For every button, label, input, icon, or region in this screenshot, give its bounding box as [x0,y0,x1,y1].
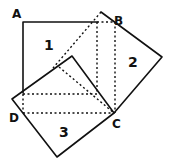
dotted-diagonal-to-C [59,67,114,113]
dashed-edge-square-2 [53,12,101,68]
label-D: D [9,111,19,125]
label-A: A [12,7,22,21]
region-label-3: 3 [59,124,69,140]
label-B: B [114,14,123,28]
label-C: C [112,117,121,131]
region-label-1: 1 [44,37,54,53]
pythagorean-diagram: A B C D 1 2 3 [0,0,170,167]
region-label-2: 2 [128,54,138,70]
